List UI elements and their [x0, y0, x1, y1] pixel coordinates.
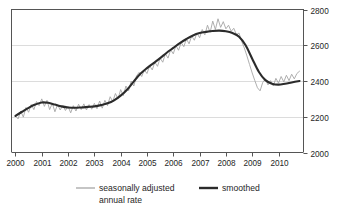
legend-label-raw-line1: seasonally adjusted: [99, 183, 175, 193]
x-tick-label: 2004: [112, 159, 131, 168]
legend-label-raw-line2: annual rate: [99, 195, 142, 205]
y-tick-label: 2800: [311, 7, 330, 16]
x-tick-label: 2003: [85, 159, 104, 168]
legend-label-smoothed: smoothed: [222, 183, 260, 193]
y-tick-label: 2000: [311, 150, 330, 159]
x-tick-label: 2005: [138, 159, 157, 168]
x-tick-label: 2002: [59, 159, 78, 168]
y-tick-label: 2200: [311, 114, 330, 123]
x-tick-label: 2009: [243, 159, 262, 168]
x-tick-label: 2006: [164, 159, 183, 168]
x-axis-tick-labels: 2000200120022003200420052006200720082009…: [6, 159, 289, 168]
x-tick-label: 2008: [217, 159, 236, 168]
y-tick-label: 2400: [311, 78, 330, 87]
x-tick-label: 2010: [270, 159, 289, 168]
x-tick-label: 2000: [6, 159, 25, 168]
line-chart: 20002200240026002800 2000200120022003200…: [0, 0, 342, 212]
x-tick-label: 2007: [191, 159, 210, 168]
x-tick-label: 2001: [33, 159, 52, 168]
y-tick-label: 2600: [311, 42, 330, 51]
chart-canvas: 20002200240026002800 2000200120022003200…: [0, 0, 342, 212]
